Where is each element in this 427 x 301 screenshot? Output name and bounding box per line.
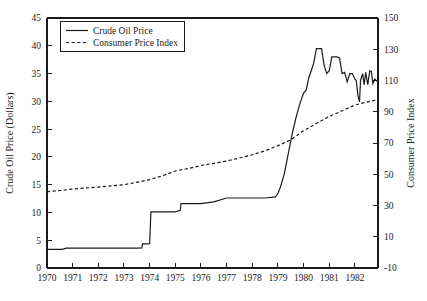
x-tick-label: 1971: [63, 273, 82, 283]
right-tick-label: -10: [384, 263, 397, 273]
y2-axis-title: Consumer Price Index: [405, 98, 416, 187]
left-tick-label: 45: [32, 13, 42, 23]
legend-label-consumer-price-index: Consumer Price Index: [93, 38, 178, 48]
right-tick-label: 50: [384, 170, 394, 180]
left-tick-label: 40: [32, 41, 42, 51]
left-tick-label: 25: [32, 125, 42, 135]
x-tick-label: 1975: [166, 273, 185, 283]
x-tick-label: 1980: [294, 273, 313, 283]
x-axis-ticks: 1970197119721973197419751976197719781979…: [38, 263, 365, 283]
left-tick-label: 20: [32, 152, 42, 162]
left-tick-label: 0: [36, 263, 41, 273]
left-tick-label: 30: [32, 97, 42, 107]
x-tick-label: 1981: [320, 273, 339, 283]
crude-oil-cpi-chart: 051015202530354045 -10103050709011013015…: [0, 0, 427, 301]
x-tick-label: 1976: [191, 273, 210, 283]
left-tick-label: 10: [32, 208, 42, 218]
x-tick-label: 1973: [114, 273, 133, 283]
left-axis-ticks: 051015202530354045: [32, 13, 53, 273]
x-tick-label: 1977: [217, 273, 236, 283]
left-tick-label: 5: [36, 236, 41, 246]
right-tick-label: 150: [384, 13, 399, 23]
right-tick-label: 30: [384, 201, 394, 211]
left-tick-label: 35: [32, 69, 42, 79]
chart-svg: 051015202530354045 -10103050709011013015…: [0, 0, 427, 301]
legend-label-crude-oil-price: Crude Oil Price: [93, 26, 153, 36]
x-tick-label: 1972: [89, 273, 108, 283]
right-tick-label: 70: [384, 138, 394, 148]
right-tick-label: 110: [384, 76, 398, 86]
right-tick-label: 90: [384, 107, 394, 117]
y-axis-title: Crude Oil Price (Dollars): [4, 92, 16, 193]
x-tick-label: 1979: [268, 273, 287, 283]
crude-oil-price-line: [47, 49, 377, 250]
x-tick-label: 1982: [345, 273, 364, 283]
left-tick-label: 15: [32, 180, 42, 190]
consumer-price-index-line: [47, 100, 377, 192]
right-tick-label: 130: [384, 45, 399, 55]
right-tick-label: 10: [384, 232, 394, 242]
right-axis-ticks: -101030507090110130150: [373, 13, 399, 273]
plot-frame: [47, 18, 378, 268]
chart-legend: Crude Oil Price Consumer Price Index: [60, 21, 184, 51]
x-tick-label: 1970: [38, 273, 57, 283]
x-tick-label: 1974: [140, 273, 159, 283]
x-tick-label: 1978: [243, 273, 262, 283]
